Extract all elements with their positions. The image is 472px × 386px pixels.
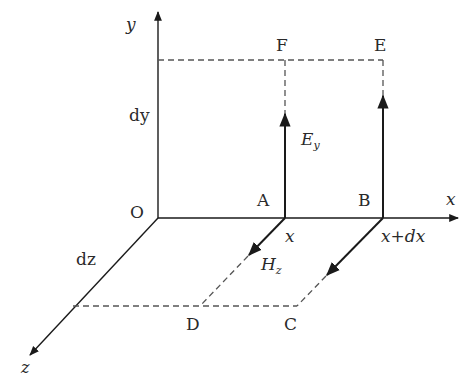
hz-arrow-B (327, 218, 383, 275)
x-axis-label: x (446, 189, 456, 209)
em-wave-element-diagram: y x z O dy dz F E A B D C x x+dx Ey Hz (0, 0, 472, 386)
dy-text: dy (129, 105, 150, 125)
x-position-A-label: x (285, 226, 295, 246)
x-position-B-label: x+dx (381, 226, 426, 246)
y-axis-label: y (125, 14, 136, 34)
ey-label: Ey (300, 129, 320, 152)
dz-text: dz (76, 249, 96, 269)
ey-subscript: y (312, 139, 320, 152)
dy-label: dy (129, 105, 150, 125)
point-B-label: B (358, 190, 371, 210)
hz-symbol: H (260, 254, 277, 274)
point-C-label: C (284, 314, 297, 334)
hz-arrow-A (249, 218, 285, 255)
point-A-label: A (256, 190, 270, 210)
dashed-line-C (297, 276, 326, 306)
ey-symbol: E (300, 129, 314, 149)
point-F-label: F (276, 35, 288, 55)
point-E-label: E (374, 35, 386, 55)
hz-subscript: z (275, 264, 282, 277)
dashed-line-D (200, 256, 248, 306)
z-axis (30, 218, 158, 355)
origin-label: O (130, 202, 144, 222)
z-axis-label: z (20, 358, 30, 377)
hz-label: Hz (260, 254, 282, 277)
point-D-label: D (186, 314, 200, 334)
dz-label: dz (76, 249, 96, 269)
